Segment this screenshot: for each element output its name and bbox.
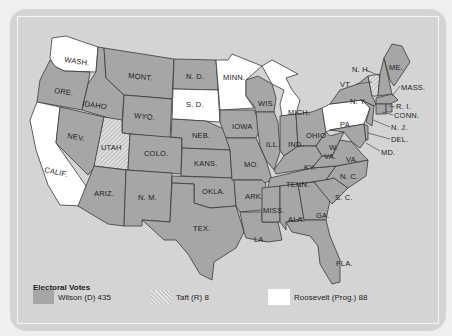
label-nh: N. H. — [352, 65, 370, 74]
label-ala: ALA. — [288, 215, 305, 224]
label-kans: KANS. — [194, 159, 218, 168]
label-mich: MICH. — [288, 108, 310, 117]
label-ind: IND. — [288, 140, 304, 149]
state-rhode-island[interactable] — [386, 104, 392, 112]
label-tex: TEX. — [193, 224, 210, 233]
label-ky: KY. — [304, 163, 316, 172]
label-nd: N. D. — [186, 72, 204, 81]
label-ariz: ARIZ. — [94, 189, 114, 198]
label-tenn: TENN. — [286, 180, 310, 189]
label-ohio: OHIO — [306, 131, 326, 140]
label-va: VA. — [346, 155, 358, 164]
label-fla: FLA. — [336, 259, 353, 268]
label-md: MD. — [381, 148, 395, 157]
label-pa: PA. — [340, 120, 352, 129]
label-la: LA. — [254, 235, 266, 244]
label-wis: WIS. — [258, 99, 275, 108]
legend-item-wilson: Wilson (D) 435 — [33, 290, 111, 304]
label-ill: ILL. — [266, 140, 279, 149]
legend-label-wilson: Wilson (D) 435 — [58, 293, 111, 302]
label-ri: R. I. — [396, 102, 411, 111]
label-nm: N. M. — [138, 193, 157, 202]
label-wva-2: VA. — [324, 152, 336, 161]
label-ark: ARK. — [245, 192, 263, 201]
label-me: ME. — [389, 63, 403, 72]
label-minn: MINN. — [223, 73, 245, 82]
label-nc: N. C. — [340, 172, 358, 181]
wilson-swatch — [33, 290, 54, 304]
legend-item-taft: Taft (R) 8 — [151, 290, 209, 304]
label-iowa: IOWA — [232, 122, 253, 131]
label-miss: MISS. — [263, 206, 284, 215]
taft-swatch — [151, 290, 172, 304]
label-nj: N. J. — [391, 123, 407, 132]
state-florida[interactable] — [286, 220, 340, 284]
label-mass: MASS. — [401, 83, 425, 92]
label-utah: UTAH — [101, 143, 122, 152]
label-del: DEL. — [391, 135, 408, 144]
label-neb: NEB. — [192, 131, 210, 140]
label-okla: OKLA. — [202, 187, 225, 196]
legend-item-roosevelt: Roosevelt (Prog.) 88 — [268, 290, 367, 304]
label-sc: S. C. — [335, 193, 353, 202]
legend-label-roosevelt: Roosevelt (Prog.) 88 — [294, 293, 367, 302]
state-washington[interactable] — [50, 36, 98, 72]
legend-label-taft: Taft (R) 8 — [176, 293, 209, 302]
label-colo: COLO. — [144, 149, 168, 158]
label-ga: GA. — [316, 211, 330, 220]
roosevelt-swatch — [268, 289, 290, 305]
label-ny: N. Y. — [350, 97, 367, 106]
label-conn: CONN. — [394, 111, 419, 120]
label-sd: S. D. — [186, 100, 204, 109]
label-wva-1: W. — [329, 143, 338, 152]
state-mississippi[interactable] — [262, 186, 280, 222]
label-vt: VT. — [340, 80, 351, 89]
label-mo: MO. — [244, 160, 259, 169]
